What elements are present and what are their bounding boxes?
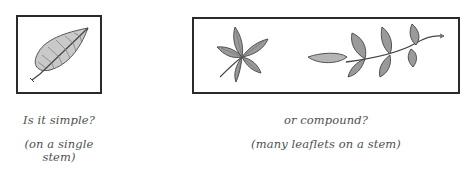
simple-leaf-box	[16, 15, 102, 94]
compound-question: or compound?	[192, 114, 460, 127]
simple-leaf-icon	[18, 17, 100, 92]
simple-note: (on a single stem)	[0, 138, 118, 164]
simple-note-line2: stem)	[0, 151, 118, 164]
compound-leaf-box	[192, 17, 460, 94]
pinnate-compound-leaf-icon	[194, 19, 458, 92]
simple-question: Is it simple?	[0, 114, 118, 127]
compound-note: (many leaflets on a stem)	[192, 138, 460, 151]
